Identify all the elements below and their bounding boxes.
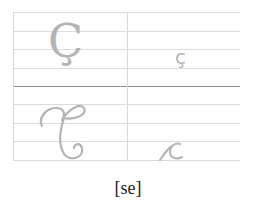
phonetic-label: [se] bbox=[0, 178, 256, 199]
lower-print-letter: ç bbox=[175, 47, 186, 67]
center-vertical-line bbox=[127, 12, 128, 161]
cursive-lower-letter bbox=[158, 140, 188, 162]
upper-print-letter: Ç bbox=[48, 18, 83, 64]
left-border bbox=[13, 12, 14, 161]
cursive-upper-letter bbox=[36, 100, 96, 162]
